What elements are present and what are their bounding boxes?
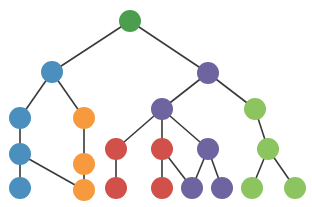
tree-node-purple — [197, 138, 219, 160]
tree-node-light-green — [257, 138, 279, 160]
tree-node-blue — [9, 107, 31, 129]
tree-node-red — [151, 138, 173, 160]
tree-node-root-green — [119, 10, 141, 32]
tree-node-blue — [9, 177, 31, 199]
tree-node-orange — [73, 179, 95, 201]
tree-node-red — [105, 138, 127, 160]
tree-node-purple — [151, 98, 173, 120]
tree-node-purple — [211, 177, 233, 199]
tree-node-blue — [41, 61, 63, 83]
tree-node-light-green — [284, 177, 306, 199]
tree-node-blue — [9, 143, 31, 165]
tree-node-light-green — [244, 98, 266, 120]
tree-node-orange — [73, 107, 95, 129]
tree-node-light-green — [241, 177, 263, 199]
tree-edge — [52, 21, 130, 72]
tree-node-orange — [73, 153, 95, 175]
tree-node-red — [151, 177, 173, 199]
tree-diagram — [0, 0, 312, 207]
tree-edge — [130, 21, 208, 73]
tree-node-purple — [181, 177, 203, 199]
tree-node-purple — [197, 62, 219, 84]
tree-node-red — [105, 177, 127, 199]
